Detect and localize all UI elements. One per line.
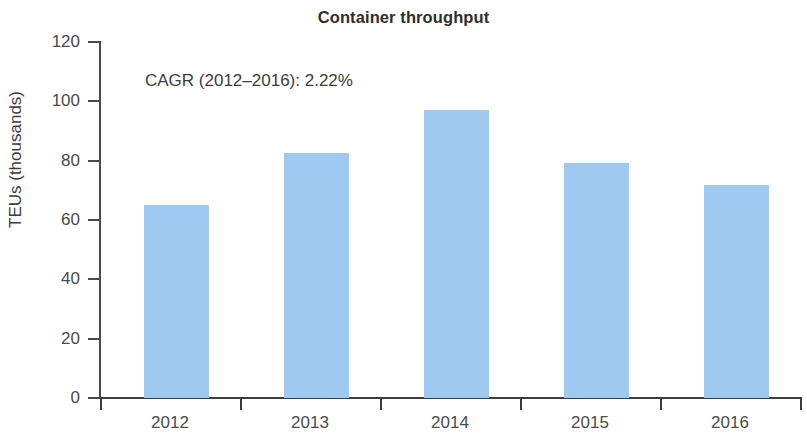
x-axis-ticks-and-labels: 20122013201420152016 — [100, 399, 800, 435]
x-axis-tick-mark — [800, 399, 802, 410]
x-axis-tick-mark — [380, 399, 382, 410]
x-axis-tick-mark — [520, 399, 522, 410]
x-axis-tick-mark — [240, 399, 242, 410]
y-axis-tick-label: 0 — [71, 388, 80, 408]
bar — [704, 185, 769, 398]
y-axis-tick-mark: 120 — [88, 41, 100, 43]
chart-title: Container throughput — [0, 8, 807, 27]
bar — [564, 163, 629, 398]
y-axis-tick-mark: 80 — [88, 160, 100, 162]
y-axis-tick-label: 40 — [61, 269, 80, 289]
y-axis-tick-label: 120 — [52, 32, 80, 52]
y-axis-tick-mark: 100 — [88, 100, 100, 102]
x-axis-tick-mark — [660, 399, 662, 410]
y-axis-tick-label: 20 — [61, 329, 80, 349]
y-axis-tick-mark: 20 — [88, 338, 100, 340]
bar — [424, 110, 489, 398]
x-axis-category-label: 2013 — [240, 413, 380, 433]
x-axis-tick-mark — [100, 399, 102, 410]
bar — [144, 205, 209, 398]
y-axis-tick-mark: 60 — [88, 219, 100, 221]
x-axis-category-label: 2012 — [100, 413, 240, 433]
y-axis-tick-mark: 40 — [88, 278, 100, 280]
y-axis-title: TEUs (thousands) — [6, 8, 26, 228]
y-axis-tick-label: 60 — [61, 210, 80, 230]
x-axis-category-label: 2016 — [660, 413, 800, 433]
x-axis-category-label: 2014 — [380, 413, 520, 433]
plot-area: 020406080100120 — [100, 42, 800, 398]
bar-chart: Container throughput TEUs (thousands) 02… — [0, 0, 807, 435]
y-axis-tick-mark: 0 — [88, 397, 100, 399]
bar — [284, 153, 349, 398]
y-axis-tick-label: 100 — [52, 91, 80, 111]
y-axis-tick-label: 80 — [61, 151, 80, 171]
x-axis-category-label: 2015 — [520, 413, 660, 433]
cagr-annotation: CAGR (2012–2016): 2.22% — [145, 71, 353, 91]
